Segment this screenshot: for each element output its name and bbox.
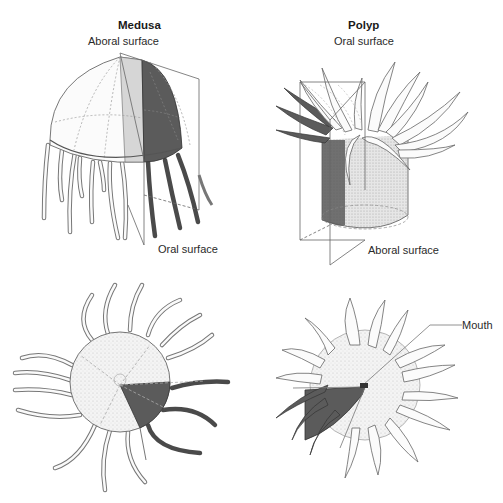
polyp-side-view [276, 62, 468, 265]
polyp-aboral-surface-label: Aboral surface [368, 244, 439, 256]
medusa-aboral-surface-label: Aboral surface [88, 35, 159, 47]
polyp-title: Polyp [348, 19, 379, 31]
polyp-oral-surface-label: Oral surface [334, 35, 394, 47]
medusa-top-view [15, 285, 228, 490]
medusa-title: Medusa [118, 19, 161, 31]
mouth-label: Mouth [462, 319, 493, 331]
medusa-tentacles-dark [148, 155, 198, 236]
polyp-top-view [276, 298, 462, 478]
medusa-side-view [44, 53, 212, 245]
medusa-oral-surface-label: Oral surface [158, 243, 218, 255]
